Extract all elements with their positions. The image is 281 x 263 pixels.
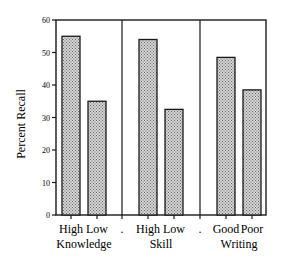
x-category-label: High [59,222,83,236]
bar-skill-low [165,109,183,215]
x-axis-labels: HighLowKnowledgeHighLowSkillGoodPoorWrit… [56,215,263,251]
bar-skill-high [139,40,157,216]
x-category-label: Low [163,222,185,236]
x-group-label: Writing [221,237,258,251]
y-tick-label: 30 [42,114,50,123]
x-category-label: Good [213,222,240,236]
bar-knowledge-low [88,101,106,215]
x-group-label: Knowledge [56,237,111,251]
y-tick-label: 20 [42,146,50,155]
y-tick-label: 0 [46,211,50,220]
x-group-label: Skill [150,237,173,251]
group-separator-label: . [199,222,202,236]
bar-knowledge-high [62,36,80,215]
x-category-label: Low [86,222,108,236]
y-axis-title: Percent Recall [14,89,28,159]
bar-writing-good [217,57,235,215]
bars [62,36,261,215]
group-separator-label: . [121,222,124,236]
y-axis: 0102030405060 [42,16,56,220]
y-tick-label: 40 [42,81,50,90]
y-tick-label: 50 [42,49,50,58]
x-category-label: Poor [241,222,264,236]
x-category-label: High [136,222,160,236]
y-tick-label: 10 [42,179,50,188]
bar-chart: 0102030405060 HighLowKnowledgeHighLowSki… [0,0,281,263]
y-tick-label: 60 [42,16,50,25]
bar-writing-poor [243,90,261,215]
